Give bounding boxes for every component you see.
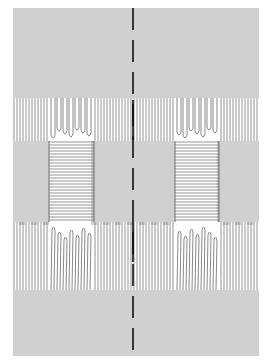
thread-loop [87, 233, 91, 290]
thread-loop [63, 98, 67, 134]
thread-loop [81, 98, 85, 133]
thread-loop [207, 98, 211, 130]
woven-fabric-diagram [0, 0, 273, 364]
thread-loop [69, 230, 73, 290]
thread-loop [51, 98, 55, 138]
thread-loop [189, 229, 193, 290]
thread-loop [177, 98, 181, 135]
thread-loop [213, 237, 217, 290]
thread-loop [57, 98, 61, 131]
thread-loop [195, 98, 199, 134]
thread-loop [195, 234, 199, 290]
thread-loop [69, 98, 73, 137]
weave-layer [13, 8, 259, 356]
thread-loop [207, 232, 211, 290]
thread-loop [75, 98, 79, 130]
thread-loop [201, 227, 205, 290]
thread-loop [81, 228, 85, 290]
thread-loop [51, 227, 55, 290]
thread-loop [57, 232, 61, 290]
thread-loop [87, 98, 91, 136]
thread-loop [75, 235, 79, 290]
thread-loop [201, 98, 205, 137]
thread-loop [183, 236, 187, 290]
thread-loop [213, 98, 217, 133]
thread-loop [183, 98, 187, 138]
thread-loop [63, 237, 67, 290]
thread-loop [189, 98, 193, 131]
thread-loop [177, 231, 181, 290]
